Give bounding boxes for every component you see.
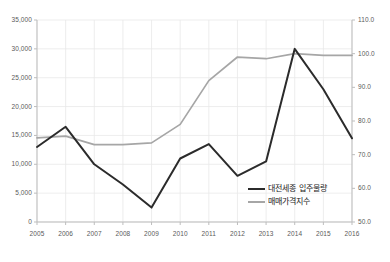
y-axis-right-tick-label: 90.0 bbox=[358, 83, 371, 90]
legend-color-swatch bbox=[248, 201, 265, 203]
y-axis-left-tick-label: 30,000 bbox=[12, 45, 32, 52]
y-axis-left-tick-label: 35,000 bbox=[12, 16, 32, 23]
series-line bbox=[37, 54, 352, 145]
x-axis-tick-label: 2008 bbox=[109, 230, 137, 237]
x-axis-tick-label: 2015 bbox=[309, 230, 337, 237]
legend-item[interactable]: 매매가격지수 bbox=[248, 198, 310, 206]
y-axis-right-tick-label: 50.0 bbox=[358, 218, 371, 225]
y-axis-right-tick-label: 80.0 bbox=[358, 117, 371, 124]
x-axis-tick-label: 2014 bbox=[281, 230, 309, 237]
y-axis-right-tick-label: 100.0 bbox=[358, 50, 375, 57]
chart-plot-area bbox=[0, 0, 390, 262]
legend-label: 대전세종 입주물량 bbox=[268, 185, 327, 193]
y-axis-right-tick-label: 70.0 bbox=[358, 151, 371, 158]
x-axis-tick-label: 2011 bbox=[195, 230, 223, 237]
legend-color-swatch bbox=[248, 188, 265, 190]
y-axis-left-tick-label: 5,000 bbox=[15, 189, 32, 196]
legend-item[interactable]: 대전세종 입주물량 bbox=[248, 185, 327, 193]
tick-marks bbox=[34, 20, 355, 225]
y-axis-left-tick-label: 10,000 bbox=[12, 160, 32, 167]
y-axis-right-tick-label: 60.0 bbox=[358, 184, 371, 191]
x-axis-tick-label: 2012 bbox=[223, 230, 251, 237]
x-axis-tick-label: 2009 bbox=[138, 230, 166, 237]
y-axis-left-tick-label: 20,000 bbox=[12, 103, 32, 110]
x-axis-tick-label: 2005 bbox=[23, 230, 51, 237]
legend-label: 매매가격지수 bbox=[268, 198, 310, 206]
y-axis-right-tick-label: 110.0 bbox=[358, 16, 374, 23]
chart-container: 05,00010,00015,00020,00025,00030,00035,0… bbox=[0, 0, 390, 262]
y-axis-left-tick-label: 15,000 bbox=[12, 131, 32, 138]
x-axis-tick-label: 2016 bbox=[338, 230, 366, 237]
y-axis-left-tick-label: 25,000 bbox=[12, 74, 32, 81]
x-axis-tick-label: 2006 bbox=[52, 230, 80, 237]
x-axis-tick-label: 2013 bbox=[252, 230, 280, 237]
x-axis-tick-label: 2010 bbox=[166, 230, 194, 237]
y-axis-left-tick-label: 0 bbox=[28, 218, 32, 225]
x-axis-tick-label: 2007 bbox=[80, 230, 108, 237]
